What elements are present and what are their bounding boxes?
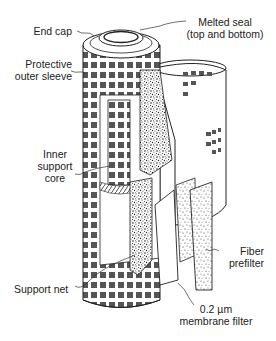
membrane-text-2: membrane filter [170,315,262,327]
melted-seal-text: Melted seal [180,16,270,28]
membrane-text-1: 0.2 µm [170,303,262,315]
inner-core-text-1: Inner [30,148,80,160]
inner-core-text-3: core [30,172,80,184]
melted-seal-subtext: (top and bottom) [180,28,270,40]
support-net-sheet [130,178,152,275]
label-fiber-prefilter: Fiber prefilter [210,245,264,269]
label-outer-sleeve: Protective outer sleeve [6,58,72,82]
label-support-net: Support net [14,283,68,295]
outer-sleeve-text-2: outer sleeve [6,70,72,82]
prefilter-text-1: Fiber [210,245,264,257]
outer-sleeve-text-1: Protective [6,58,72,70]
prefilter-text-2: prefilter [210,257,264,269]
prefilter-sheet-2 [190,182,212,290]
end-cap-text: End cap [33,25,72,37]
label-membrane-filter: 0.2 µm membrane filter [170,303,262,327]
inner-core-text-2: support [30,160,80,172]
label-inner-support-core: Inner support core [30,148,80,184]
end-cap [83,30,159,58]
label-melted-seal: Melted seal (top and bottom) [180,16,270,40]
filter-cartridge-diagram: End cap Melted seal (top and bottom) Pro… [0,0,276,341]
label-end-cap: End cap [8,25,72,37]
support-net-text: Support net [14,283,68,295]
